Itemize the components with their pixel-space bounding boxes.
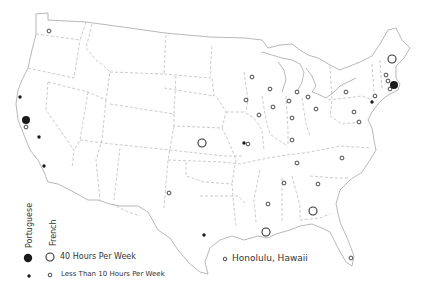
legend-symbols (0, 0, 424, 294)
legend-small-label: Less Than 10 Hours Per Week (61, 270, 165, 278)
hawaii-circle (223, 257, 227, 261)
language-broadcast-map: Portuguese French 40 Hours Per Week Less… (0, 0, 424, 294)
legend-portuguese-small-dot (27, 274, 30, 277)
legend-large-label: 40 Hours Per Week (60, 252, 136, 261)
legend-portuguese-large-dot (24, 254, 32, 262)
legend-french-large-circle (46, 253, 54, 261)
hawaii-label: Honolulu, Hawaii (232, 253, 308, 263)
legend-french-small-circle (48, 273, 52, 277)
